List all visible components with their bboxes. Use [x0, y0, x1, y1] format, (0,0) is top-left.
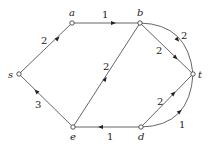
weight-b-t-curve: 2 — [181, 30, 187, 41]
label-s: s — [8, 69, 13, 80]
weight-s-a: 2 — [41, 35, 47, 46]
weight-e-b: 2 — [103, 61, 109, 72]
weight-e-s: 3 — [35, 99, 41, 110]
weight-b-t-straight: 2 — [156, 45, 162, 56]
label-a: a — [69, 7, 75, 18]
weight-a-b: 1 — [102, 9, 108, 20]
graph-diagram: 2 1 2 2 2 3 1 2 1 s a b t d e — [0, 0, 210, 149]
edge-e-b — [73, 23, 140, 127]
label-b: b — [137, 7, 143, 18]
edge-e-s — [19, 74, 73, 127]
arrow-a-b-icon — [111, 21, 116, 25]
weight-d-t-straight: 2 — [157, 96, 163, 107]
node-b — [138, 21, 142, 25]
edge-s-a — [19, 23, 72, 74]
label-e: e — [70, 131, 76, 142]
weight-d-t-curve: 1 — [179, 119, 185, 130]
label-t: t — [198, 69, 203, 80]
arrow-b-t-curve-icon — [174, 37, 180, 43]
node-t — [191, 72, 195, 76]
arrow-s-a-icon — [55, 35, 61, 41]
node-e — [71, 125, 75, 129]
node-a — [70, 21, 74, 25]
node-s — [17, 72, 21, 76]
node-d — [139, 125, 143, 129]
label-d: d — [138, 131, 144, 142]
weight-d-e: 1 — [107, 131, 113, 142]
arrow-d-e-icon — [98, 125, 103, 129]
